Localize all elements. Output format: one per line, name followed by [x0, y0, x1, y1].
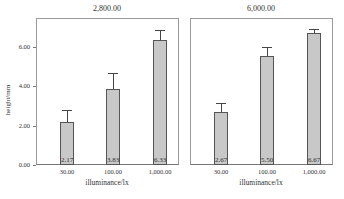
x-tick-label: 100.00	[247, 168, 287, 175]
bar: 6.67	[307, 33, 321, 165]
error-cap	[108, 73, 118, 74]
bar: 2.67	[214, 112, 228, 165]
bar-value-label: 6.33	[145, 156, 175, 164]
error-cap	[155, 30, 165, 31]
y-tick-label: 0.00	[6, 161, 30, 168]
error-bar	[267, 47, 268, 56]
y-tick-mark	[33, 165, 36, 166]
panel-title: 2,800.00	[36, 4, 178, 13]
error-cap	[216, 103, 226, 104]
bar: 5.50	[260, 56, 274, 165]
x-axis-label: illuminance/lx	[36, 178, 178, 187]
bar-value-label: 2.67	[206, 156, 236, 164]
error-cap	[309, 29, 319, 30]
x-axis-label: illuminance/lx	[190, 178, 332, 187]
error-cap	[62, 110, 72, 111]
x-tick-label: 100.00	[93, 168, 133, 175]
bar: 2.17	[60, 122, 74, 165]
panel-title: 6,000.00	[190, 4, 332, 13]
x-tick-label: 1,000.00	[140, 168, 180, 175]
y-tick-label: 4.00	[6, 82, 30, 89]
bar: 6.33	[153, 40, 167, 165]
x-tick-label: 30.00	[201, 168, 241, 175]
y-tick-label: 6.00	[6, 43, 30, 50]
error-cap	[262, 47, 272, 48]
x-tick-label: 1,000.00	[294, 168, 334, 175]
bar-value-label: 3.83	[98, 156, 128, 164]
bar-value-label: 5.50	[252, 156, 282, 164]
bar-value-label: 6.67	[299, 156, 329, 164]
error-bar	[67, 110, 68, 122]
error-bar	[160, 30, 161, 40]
x-tick-label: 30.00	[47, 168, 87, 175]
y-tick-label: 2.00	[6, 122, 30, 129]
error-bar	[221, 103, 222, 112]
bar: 3.83	[106, 89, 120, 165]
error-bar	[113, 73, 114, 89]
bar-value-label: 2.17	[52, 156, 82, 164]
